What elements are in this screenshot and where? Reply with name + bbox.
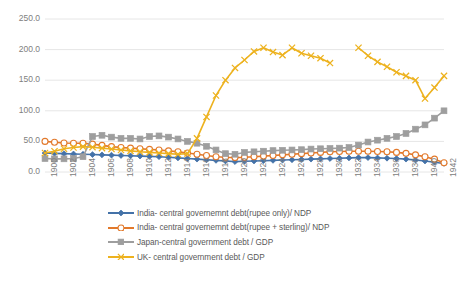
marker-x <box>365 53 371 59</box>
data-point-marker <box>156 147 162 153</box>
data-point-marker <box>118 254 124 260</box>
marker-square <box>156 133 162 139</box>
legend-label: Japan-central government debt / GDP <box>137 238 273 247</box>
marker-square <box>223 151 229 157</box>
data-point-marker <box>403 156 409 162</box>
data-point-marker <box>289 147 295 153</box>
data-point-marker <box>128 135 134 141</box>
data-point-marker <box>261 148 267 154</box>
marker-diamond <box>327 156 333 162</box>
data-point-marker <box>346 155 352 161</box>
marker-square <box>232 151 238 157</box>
data-point-marker <box>431 84 437 90</box>
marker-circle <box>156 147 162 153</box>
x-axis-tick-label: 1908 <box>125 158 135 177</box>
data-point-marker <box>299 147 305 153</box>
x-axis-tick-label: 1920 <box>239 158 249 177</box>
data-point-marker <box>308 156 314 162</box>
marker-diamond <box>118 210 124 216</box>
marker-circle <box>413 152 419 158</box>
data-point-marker <box>118 225 124 231</box>
marker-square <box>61 156 67 162</box>
data-point-marker <box>413 152 419 158</box>
legend-item[interactable]: UK- central government debt / GDP <box>108 250 408 265</box>
data-point-marker <box>52 139 58 145</box>
marker-circle <box>384 149 390 155</box>
data-point-marker <box>384 149 390 155</box>
data-point-marker <box>356 148 362 154</box>
marker-diamond <box>99 152 105 158</box>
marker-square <box>99 132 105 138</box>
marker-x <box>384 64 390 70</box>
marker-square <box>356 142 362 148</box>
data-point-marker <box>147 134 153 140</box>
data-point-marker <box>365 155 371 161</box>
x-axis-tick-label: 1938 <box>410 158 420 177</box>
data-point-marker <box>147 146 153 152</box>
marker-square <box>175 136 181 142</box>
data-point-marker <box>365 53 371 59</box>
marker-square <box>346 145 352 151</box>
x-axis-tick-label: 1942 <box>448 158 458 177</box>
marker-diamond <box>90 152 96 158</box>
x-axis-tick-label: 1930 <box>334 158 344 177</box>
marker-x <box>241 57 247 63</box>
data-point-marker <box>61 140 67 146</box>
marker-square <box>261 148 267 154</box>
legend-label: India- central governemnt debt(rupee + s… <box>137 223 329 232</box>
marker-square <box>270 148 276 154</box>
x-axis-tick-label: 1918 <box>220 158 230 177</box>
data-point-marker <box>194 151 200 157</box>
data-point-marker <box>99 132 105 138</box>
data-point-marker <box>394 134 400 140</box>
data-point-marker <box>203 114 209 120</box>
legend-item[interactable]: India- central governemnt debt(rupee onl… <box>108 206 408 221</box>
legend-item[interactable]: Japan-central government debt / GDP <box>108 235 408 250</box>
data-point-marker <box>327 156 333 162</box>
marker-square <box>394 134 400 140</box>
marker-square <box>403 131 409 137</box>
marker-square <box>80 154 86 160</box>
marker-x <box>431 84 437 90</box>
data-point-marker <box>90 134 96 140</box>
x-axis-tick-label: 1924 <box>277 158 287 177</box>
marker-diamond <box>308 156 314 162</box>
marker-x <box>118 254 124 260</box>
x-axis-tick-label: 1900 <box>49 158 59 177</box>
data-point-marker <box>422 122 428 128</box>
marker-square <box>318 146 324 152</box>
data-point-marker <box>394 149 400 155</box>
data-point-marker <box>137 136 143 142</box>
legend-label: India- central governemnt debt(rupee onl… <box>137 209 311 218</box>
x-axis-tick-label: 1906 <box>106 158 116 177</box>
marker-circle <box>147 146 153 152</box>
marker-diamond <box>118 153 124 159</box>
data-point-marker <box>223 151 229 157</box>
y-axis-tick-label: 150.0 <box>19 74 40 84</box>
data-point-marker <box>175 136 181 142</box>
data-point-marker <box>213 147 219 153</box>
data-point-marker <box>270 148 276 154</box>
data-point-marker <box>61 156 67 162</box>
marker-square <box>327 146 333 152</box>
legend-marker-icon <box>116 223 124 231</box>
marker-square <box>422 122 428 128</box>
data-point-marker <box>365 148 371 154</box>
marker-circle <box>356 148 362 154</box>
legend-item[interactable]: India- central governemnt debt(rupee + s… <box>108 221 408 236</box>
data-point-marker <box>384 135 390 141</box>
marker-square <box>109 134 115 140</box>
data-point-marker <box>308 146 314 152</box>
x-axis-tick-label: 1936 <box>391 158 401 177</box>
data-point-marker <box>441 73 447 79</box>
data-point-marker <box>251 149 257 155</box>
x-axis-tick-label: 1934 <box>372 158 382 177</box>
data-point-marker <box>213 92 219 98</box>
marker-square <box>185 139 191 145</box>
legend-marker-icon <box>116 252 124 260</box>
data-point-marker <box>384 155 390 161</box>
y-axis-tick-label: 100.0 <box>19 105 40 115</box>
legend-key-icon <box>108 222 134 234</box>
legend-key-icon <box>108 207 134 219</box>
marker-circle <box>394 149 400 155</box>
